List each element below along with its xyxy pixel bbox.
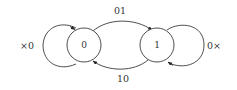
state-diagram: 0 1 ×0 01 10 0× [0, 0, 237, 90]
state-label: 0 [81, 40, 87, 50]
state-node-0: 0 [67, 28, 101, 62]
edge-label-self-0: ×0 [20, 40, 34, 51]
self-loop-arrow-1 [168, 62, 173, 66]
edge-1-to-0 [93, 60, 148, 69]
edge-label-0-to-1: 01 [114, 5, 126, 16]
edge-0-to-1 [93, 21, 152, 31]
state-label: 1 [154, 40, 160, 50]
edge-label-self-1: 0× [207, 40, 221, 51]
edge-label-1-to-0: 10 [117, 73, 129, 84]
state-node-1: 1 [140, 28, 174, 62]
